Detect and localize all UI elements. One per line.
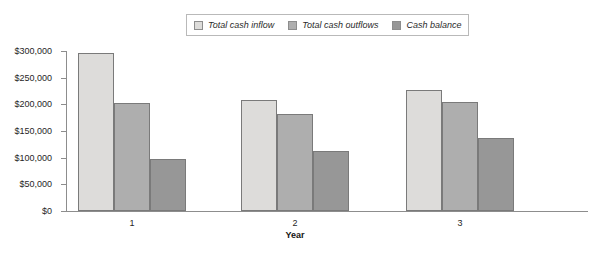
- y-axis-tick: $150,000: [61, 131, 66, 132]
- bar: [313, 151, 349, 211]
- legend-swatch-icon: [288, 21, 297, 30]
- plot-area: $0$50,000$100,000$150,000$200,000$250,00…: [66, 51, 576, 211]
- y-axis-tick: $50,000: [61, 184, 66, 185]
- chart-legend: Total cash inflow Total cash outflows Ca…: [186, 14, 469, 36]
- y-axis-tick: $0: [61, 211, 66, 212]
- legend-label: Total cash outflows: [302, 21, 378, 30]
- legend-item-total-cash-outflows: Total cash outflows: [288, 21, 378, 30]
- legend-label: Cash balance: [406, 21, 461, 30]
- bar: [78, 53, 114, 211]
- x-axis-tick-label: 3: [457, 219, 462, 228]
- y-axis-tick-label: $250,000: [14, 73, 52, 82]
- x-axis-tick-label: 1: [129, 219, 134, 228]
- y-axis-tick-label: $50,000: [19, 180, 52, 189]
- x-axis-title: Year: [285, 231, 304, 240]
- x-axis-line: [66, 211, 588, 212]
- bar: [277, 114, 313, 211]
- y-axis-tick: $300,000: [61, 51, 66, 52]
- legend-swatch-icon: [194, 21, 203, 30]
- legend-item-cash-balance: Cash balance: [392, 21, 461, 30]
- legend-item-total-cash-inflow: Total cash inflow: [194, 21, 274, 30]
- bar: [241, 100, 277, 211]
- bar-group: [241, 51, 349, 211]
- y-axis-tick: $200,000: [61, 104, 66, 105]
- y-axis-tick-label: $150,000: [14, 127, 52, 136]
- y-axis-tick-label: $300,000: [14, 47, 52, 56]
- legend-swatch-icon: [392, 21, 401, 30]
- bar: [406, 90, 442, 211]
- y-axis-tick-label: $0: [42, 207, 52, 216]
- x-axis-tick-label: 2: [292, 219, 297, 228]
- y-axis-tick: $100,000: [61, 158, 66, 159]
- bar: [150, 159, 186, 211]
- chart-container: Total cash inflow Total cash outflows Ca…: [0, 0, 592, 253]
- bar: [442, 102, 478, 211]
- bar: [114, 103, 150, 211]
- bar: [478, 138, 514, 211]
- bar-group: [78, 51, 186, 211]
- bar-group: [406, 51, 514, 211]
- y-axis-tick-label: $200,000: [14, 100, 52, 109]
- y-axis-tick: $250,000: [61, 78, 66, 79]
- y-axis-line: [66, 51, 67, 212]
- y-axis-tick-label: $100,000: [14, 153, 52, 162]
- legend-label: Total cash inflow: [208, 21, 274, 30]
